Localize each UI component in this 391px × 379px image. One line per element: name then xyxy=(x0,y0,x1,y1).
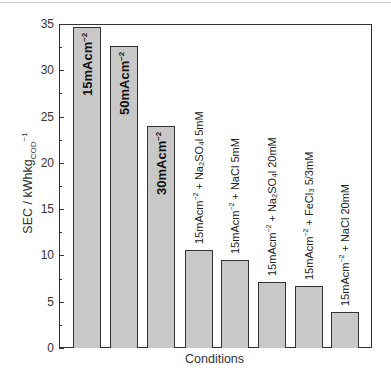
plot-area xyxy=(59,24,372,348)
y-axis-title: SEC / kWhkgCOD−1 xyxy=(21,103,35,263)
y-tick-label: 15 xyxy=(24,203,54,215)
y-major-tick xyxy=(59,163,64,164)
bar-label: 15mAcm−2 + NaCl 5mM xyxy=(229,138,241,254)
y-major-tick xyxy=(59,348,64,349)
y-major-tick xyxy=(59,117,64,118)
bar xyxy=(221,260,249,348)
bar-label: 15mAcm−2 xyxy=(80,33,95,96)
y-minor-tick xyxy=(59,140,62,141)
y-minor-tick xyxy=(59,93,62,94)
top-border-line xyxy=(0,2,391,3)
y-tick-label: 5 xyxy=(24,296,54,308)
x-axis-title: Conditions xyxy=(185,352,244,366)
bar-label: 50mAcm−2 xyxy=(117,52,132,115)
y-major-tick xyxy=(59,209,64,210)
y-major-tick xyxy=(59,24,64,25)
y-tick-label: 30 xyxy=(24,64,54,76)
bar-label: 15mAcm−2 + NaCl 20mM xyxy=(339,184,351,306)
y-minor-tick xyxy=(59,47,62,48)
y-minor-tick xyxy=(59,186,62,187)
y-tick-label: 10 xyxy=(24,249,54,261)
bar-label: 15mAcm−2 + FeCl₃ 5/3mM xyxy=(303,152,315,280)
bar-label: 15mAcm−2 + Na₂SO₄l 5mM xyxy=(193,111,205,244)
y-major-tick xyxy=(59,255,64,256)
bar xyxy=(331,312,359,348)
y-minor-tick xyxy=(59,325,62,326)
y-major-tick xyxy=(59,302,64,303)
y-tick-label: 25 xyxy=(24,111,54,123)
bar-label: 30mAcm−2 xyxy=(154,132,169,195)
y-axis-title-main: SEC / kWhkg xyxy=(21,159,35,233)
bar xyxy=(185,250,213,348)
y-tick-label: 20 xyxy=(24,157,54,169)
y-minor-tick xyxy=(59,279,62,280)
y-major-tick xyxy=(59,70,64,71)
y-axis-title-sup: −1 xyxy=(20,132,29,141)
y-tick-label: 35 xyxy=(24,18,54,30)
y-minor-tick xyxy=(59,232,62,233)
bar-label: 15mAcm−2 + Na₂SO₄l 20mM xyxy=(266,137,278,276)
bar xyxy=(258,282,286,348)
bar xyxy=(295,286,323,348)
y-tick-label: 0 xyxy=(24,342,54,354)
